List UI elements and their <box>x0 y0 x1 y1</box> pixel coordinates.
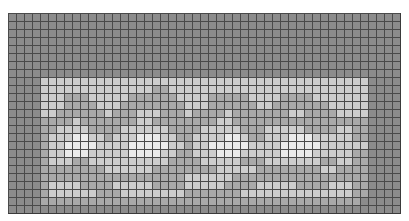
mosaic-cell <box>240 197 248 205</box>
mosaic-cell <box>224 133 232 141</box>
mosaic-cell <box>184 117 192 125</box>
mosaic-cell <box>240 45 248 53</box>
mosaic-cell <box>56 189 64 197</box>
mosaic-cell <box>328 61 336 69</box>
mosaic-cell <box>256 117 264 125</box>
mosaic-cell <box>104 189 112 197</box>
mosaic-cell <box>64 149 72 157</box>
mosaic-cell <box>384 37 392 45</box>
mosaic-cell <box>48 29 56 37</box>
mosaic-cell <box>200 21 208 29</box>
mosaic-cell <box>192 77 200 85</box>
mosaic-cell <box>376 45 384 53</box>
mosaic-cell <box>208 37 216 45</box>
mosaic-cell <box>48 205 56 213</box>
mosaic-cell <box>128 53 136 61</box>
mosaic-cell <box>160 125 168 133</box>
mosaic-cell <box>224 109 232 117</box>
mosaic-cell <box>288 13 296 21</box>
mosaic-cell <box>184 29 192 37</box>
mosaic-cell <box>208 77 216 85</box>
mosaic-cell <box>304 197 312 205</box>
mosaic-cell <box>328 205 336 213</box>
mosaic-cell <box>344 29 352 37</box>
mosaic-cell <box>360 197 368 205</box>
mosaic-cell <box>224 197 232 205</box>
mosaic-cell <box>8 133 16 141</box>
mosaic-cell <box>88 93 96 101</box>
mosaic-cell <box>16 61 24 69</box>
mosaic-cell <box>248 77 256 85</box>
mosaic-cell <box>344 21 352 29</box>
mosaic-cell <box>376 85 384 93</box>
mosaic-cell <box>280 133 288 141</box>
mosaic-cell <box>296 61 304 69</box>
mosaic-cell <box>216 181 224 189</box>
mosaic-cell <box>72 157 80 165</box>
mosaic-cell <box>384 181 392 189</box>
mosaic-cell <box>336 45 344 53</box>
mosaic-cell <box>296 165 304 173</box>
mosaic-cell <box>120 53 128 61</box>
mosaic-cell <box>320 13 328 21</box>
mosaic-cell <box>296 85 304 93</box>
mosaic-cell <box>56 109 64 117</box>
mosaic-cell <box>384 197 392 205</box>
mosaic-cell <box>336 29 344 37</box>
mosaic-cell <box>56 77 64 85</box>
mosaic-cell <box>104 173 112 181</box>
mosaic-cell <box>288 141 296 149</box>
mosaic-cell <box>160 117 168 125</box>
mosaic-cell <box>32 37 40 45</box>
mosaic-cell <box>272 69 280 77</box>
mosaic-cell <box>112 29 120 37</box>
mosaic-cell <box>176 45 184 53</box>
mosaic-cell <box>392 133 400 141</box>
mosaic-cell <box>272 181 280 189</box>
mosaic-cell <box>168 61 176 69</box>
mosaic-cell <box>280 21 288 29</box>
mosaic-cell <box>264 77 272 85</box>
mosaic-cell <box>184 93 192 101</box>
mosaic-cell <box>80 181 88 189</box>
mosaic-cell <box>176 93 184 101</box>
mosaic-cell <box>280 53 288 61</box>
mosaic-cell <box>360 117 368 125</box>
mosaic-cell <box>56 165 64 173</box>
mosaic-cell <box>288 93 296 101</box>
mosaic-cell <box>280 181 288 189</box>
mosaic-cell <box>272 149 280 157</box>
mosaic-cell <box>368 101 376 109</box>
mosaic-cell <box>296 141 304 149</box>
mosaic-cell <box>232 165 240 173</box>
mosaic-cell <box>224 53 232 61</box>
mosaic-cell <box>144 205 152 213</box>
mosaic-cell <box>320 69 328 77</box>
mosaic-cell <box>232 13 240 21</box>
mosaic-cell <box>328 149 336 157</box>
mosaic-cell <box>136 117 144 125</box>
mosaic-cell <box>184 189 192 197</box>
mosaic-cell <box>120 21 128 29</box>
mosaic-cell <box>16 77 24 85</box>
mosaic-cell <box>16 85 24 93</box>
mosaic-cell <box>96 157 104 165</box>
mosaic-cell <box>176 85 184 93</box>
mosaic-cell <box>328 133 336 141</box>
mosaic-cell <box>264 29 272 37</box>
mosaic-cell <box>112 149 120 157</box>
mosaic-cell <box>72 53 80 61</box>
mosaic-cell <box>112 13 120 21</box>
mosaic-cell <box>144 141 152 149</box>
mosaic-cell <box>144 85 152 93</box>
mosaic-cell <box>232 197 240 205</box>
mosaic-cell <box>128 189 136 197</box>
mosaic-cell <box>96 205 104 213</box>
mosaic-cell <box>24 45 32 53</box>
mosaic-cell <box>32 61 40 69</box>
mosaic-cell <box>192 117 200 125</box>
mosaic-cell <box>264 93 272 101</box>
mosaic-cell <box>120 85 128 93</box>
mosaic-cell <box>152 77 160 85</box>
mosaic-cell <box>232 141 240 149</box>
